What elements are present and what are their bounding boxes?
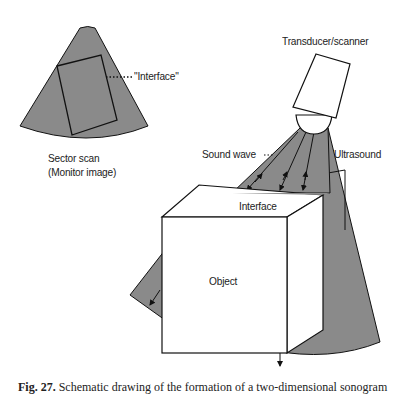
beam-top-fan [232, 128, 330, 193]
figure-caption: Fig. 27. Schematic drawing of the format… [18, 380, 387, 395]
object-cube [162, 185, 330, 366]
interface-monitor-label: "Interface" [134, 70, 179, 82]
caption-prefix: Fig. 27. [18, 380, 56, 394]
interface-label: Interface [239, 200, 277, 212]
monitor-image-label: (Monitor image) [48, 166, 116, 178]
ultrasound-label: Ultrasound [334, 148, 381, 160]
transducer-label: Transducer/scanner [282, 35, 368, 47]
caption-text: Schematic drawing of the formation of a … [59, 380, 388, 394]
transducer-icon [293, 54, 350, 134]
object-label: Object [209, 275, 237, 287]
sector-scan-monitor-image [20, 27, 148, 139]
sound-wave-label: Sound wave [202, 148, 256, 160]
sector-scan-label: Sector scan [48, 152, 100, 164]
cube-right-face [287, 195, 323, 353]
